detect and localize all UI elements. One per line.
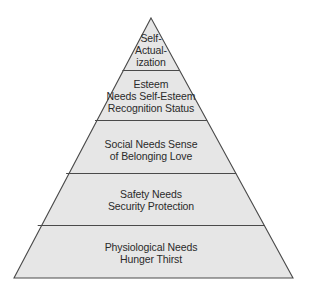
tier-social-label: Social Needs Sense of Belonging Love [71, 138, 231, 162]
tier-self-actualization-label: Self- Actual- ization [121, 32, 181, 68]
tier-physiological-label: Physiological Needs Hunger Thirst [51, 241, 251, 265]
tier-esteem-label: Esteem Needs Self-Esteem Recognition Sta… [91, 78, 211, 114]
tier-safety-label: Safety Needs Security Protection [61, 188, 241, 212]
